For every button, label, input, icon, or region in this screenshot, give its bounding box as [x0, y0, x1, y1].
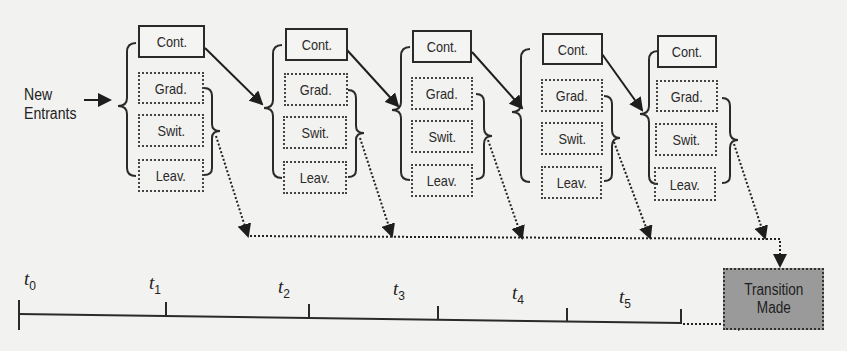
- grad-label: Grad.: [671, 88, 703, 105]
- braces: [118, 43, 738, 184]
- grad-box: Grad.: [284, 73, 348, 106]
- swit-label: Swit.: [301, 124, 329, 141]
- grad-box: Grad.: [138, 72, 204, 104]
- time-index: 2: [283, 287, 290, 301]
- leav-label: Leav.: [427, 172, 457, 189]
- leav-label: Leav.: [670, 176, 700, 193]
- time-label-t0: t0: [24, 268, 36, 293]
- time-label-t5: t5: [619, 286, 631, 311]
- time-label-t1: t1: [149, 272, 161, 297]
- swit-box: Swit.: [411, 120, 473, 153]
- timeline: [19, 300, 682, 330]
- grad-box: Grad.: [656, 80, 718, 112]
- leav-label: Leav.: [300, 169, 330, 186]
- transition-made-box: Transition Made: [723, 268, 824, 330]
- cont-box: Cont.: [657, 35, 717, 68]
- leav-box: Leav.: [283, 161, 347, 194]
- leav-label: Leav.: [156, 167, 186, 184]
- new-entrants-label: New Entrants: [24, 85, 76, 123]
- leav-box: Leav.: [654, 167, 716, 201]
- grad-box: Grad.: [541, 79, 603, 112]
- cont-box: Cont.: [138, 25, 205, 58]
- grad-box: Grad.: [411, 77, 473, 110]
- transition-made-label: Transition Made: [744, 281, 803, 318]
- time-index: 4: [517, 293, 524, 307]
- grad-label: Grad.: [556, 87, 588, 104]
- leav-box: Leav.: [138, 159, 204, 192]
- cont-label: Cont.: [301, 36, 331, 53]
- time-label-t4: t4: [512, 282, 524, 307]
- time-index: 3: [398, 289, 405, 303]
- swit-label: Swit.: [428, 128, 456, 145]
- swit-label: Swit.: [157, 122, 185, 139]
- swit-box: Swit.: [541, 122, 603, 155]
- cont-box: Cont.: [285, 28, 348, 61]
- cont-box: Cont.: [412, 30, 472, 63]
- leav-box: Leav.: [541, 166, 602, 199]
- swit-box: Swit.: [138, 114, 204, 147]
- cont-label: Cont.: [672, 43, 702, 60]
- swit-box: Swit.: [283, 116, 347, 149]
- cont-label: Cont.: [156, 33, 186, 50]
- time-index: 0: [29, 279, 36, 293]
- swit-label: Swit.: [558, 130, 586, 147]
- time-index: 5: [624, 297, 631, 311]
- swit-label: Swit.: [672, 131, 700, 148]
- swit-box: Swit.: [655, 123, 717, 156]
- time-label-t2: t2: [278, 276, 290, 301]
- grad-label: Grad.: [300, 81, 332, 98]
- time-label-t3: t3: [393, 278, 405, 303]
- time-index: 1: [154, 283, 161, 297]
- cont-label: Cont.: [427, 38, 457, 55]
- grad-label: Grad.: [155, 80, 187, 97]
- cont-label: Cont.: [557, 41, 587, 58]
- leav-label: Leav.: [556, 174, 586, 191]
- cont-box: Cont.: [542, 33, 603, 65]
- grad-label: Grad.: [426, 85, 458, 102]
- leav-box: Leav.: [411, 164, 473, 197]
